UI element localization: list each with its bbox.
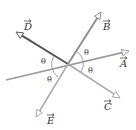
- vector-label-d: D: [23, 20, 32, 33]
- vector-label-text: C: [104, 101, 112, 112]
- arrowhead-icon: [36, 109, 42, 117]
- angle-arc-a-b: [76, 51, 83, 60]
- arrowhead-icon: [112, 91, 120, 98]
- vector-label-text: A: [119, 58, 127, 69]
- arrowhead-icon: [95, 12, 101, 20]
- angle-arc-d-e: [52, 57, 58, 78]
- arrowhead-icon: [121, 49, 129, 55]
- vector-label-b: B: [102, 20, 110, 33]
- angle-theta-label: θ: [84, 48, 89, 57]
- angle-theta-label: θ: [88, 66, 93, 75]
- vector-b-shaft: [68, 18, 97, 64]
- angle-theta-label: θ: [41, 57, 46, 66]
- vector-c: [68, 64, 120, 98]
- vector-diagram: ABCDE θθθθ: [0, 0, 136, 130]
- vector-label-text: E: [46, 115, 55, 126]
- angle-theta-label: θ: [47, 75, 52, 84]
- vector-label-a: A: [119, 57, 127, 70]
- vector-label-text: B: [102, 21, 110, 32]
- arrowhead-icon: [16, 32, 24, 38]
- vector-label-c: C: [104, 100, 112, 113]
- vector-label-text: D: [23, 21, 32, 32]
- vector-label-e: E: [46, 114, 55, 127]
- vector-a-shaft: [6, 53, 122, 80]
